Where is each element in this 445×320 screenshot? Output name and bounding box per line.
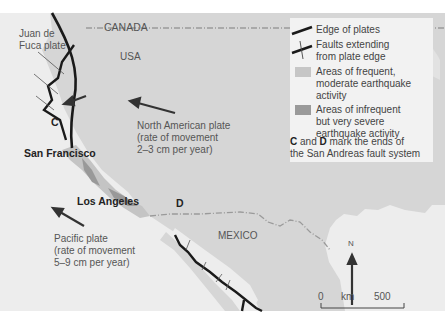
san-andreas-map: CANADA USA MEXICO Juan de Fuca plate Nor… bbox=[0, 0, 445, 320]
scale-max: 500 bbox=[374, 291, 391, 303]
label-san-francisco: San Francisco bbox=[24, 147, 96, 159]
legend: Edge of plates Faults extending from pla… bbox=[290, 18, 433, 162]
plate-edge-symbol-icon bbox=[290, 24, 316, 36]
severe-swatch-icon bbox=[295, 105, 311, 115]
label-usa: USA bbox=[120, 51, 141, 63]
fault-symbol-icon bbox=[290, 39, 316, 63]
legend-item-faults: Faults extending from plate edge bbox=[290, 39, 389, 63]
scale-unit: km bbox=[341, 291, 354, 303]
marker-d: D bbox=[176, 197, 184, 209]
frequent-swatch-icon bbox=[295, 67, 311, 77]
legend-item-frequent: Areas of frequent, moderate earthquake a… bbox=[290, 66, 411, 102]
label-north-american-plate: North American plate (rate of movement 2… bbox=[137, 120, 230, 156]
legend-note: C and D mark the ends of the San Andreas… bbox=[290, 136, 420, 160]
north-arrow-label: N bbox=[348, 238, 354, 250]
marker-c: C bbox=[51, 116, 59, 128]
scale-zero: 0 bbox=[318, 291, 324, 303]
label-los-angeles: Los Angeles bbox=[77, 195, 139, 207]
legend-item-severe: Areas of infrequent but very severe eart… bbox=[290, 104, 401, 140]
label-mexico: MEXICO bbox=[218, 230, 257, 242]
legend-item-plate-edge: Edge of plates bbox=[290, 24, 380, 36]
label-canada: CANADA bbox=[104, 21, 148, 33]
label-juan-de-fuca: Juan de Fuca plate bbox=[19, 28, 66, 52]
label-pacific-plate: Pacific plate (rate of movement 5–9 cm p… bbox=[54, 233, 135, 269]
